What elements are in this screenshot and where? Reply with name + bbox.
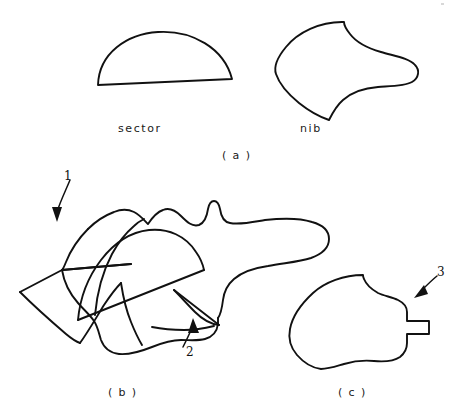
caption-a: ( a ) [222,150,251,161]
shape-nib [275,22,418,120]
caption-c: ( c ) [338,387,367,398]
label-nib: nib [300,123,322,134]
page-speck [441,3,444,5]
callout-label-3: 3 [437,266,445,278]
callout-leader-2 [183,318,199,347]
figure-linework [0,0,462,416]
shape-trimmed-nib [289,275,429,369]
callout-leader-1 [52,180,70,222]
shape-composite-overlap [20,201,329,354]
callout-label-1: 1 [64,170,72,182]
label-sector: sector [118,123,162,134]
shape-sector [98,32,232,85]
caption-b: ( b ) [108,387,138,398]
callout-label-2: 2 [186,346,194,358]
callout-leader-3 [414,276,437,298]
figure-canvas: sector nib ( a ) ( b ) ( c ) 1 2 3 [0,0,462,416]
